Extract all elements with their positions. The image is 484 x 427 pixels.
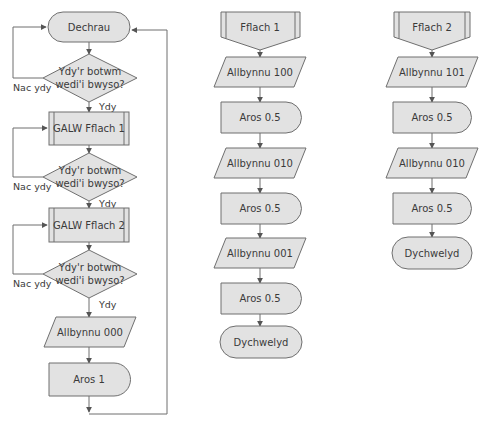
fflach2-step-3-output: Allbynnu 010 <box>386 148 478 178</box>
flowchart-canvas: Dechrau Ydy'r botwm wedi'i bwyso? Nac yd… <box>0 0 484 427</box>
fflach1-step-6-delay: Aros 0.5 <box>221 283 302 314</box>
fflach1-return-terminal: Dychwelyd <box>220 326 302 358</box>
fflach1-title: Fflach 1 <box>240 22 280 33</box>
decision-1-yes-label: Ydy <box>98 101 117 112</box>
decision-2-no-loop <box>13 128 47 177</box>
fflach1-step-4-delay: Aros 0.5 <box>221 193 302 224</box>
delay-1-label: Aros 1 <box>73 374 105 385</box>
decision-2-line1: Ydy'r botwm <box>58 165 122 176</box>
step-label: Allbynnu 001 <box>227 248 293 259</box>
fflach2-step-1-output: Allbynnu 101 <box>386 57 478 87</box>
step-label: Allbynnu 100 <box>227 67 293 78</box>
fflach1-header: Fflach 1 <box>221 12 300 50</box>
fflach2-return-label: Dychwelyd <box>405 248 460 259</box>
decision-2: Ydy'r botwm wedi'i bwyso? <box>43 153 137 201</box>
fflach1-subroutine: Fflach 1 Allbynnu 100 Aros 0.5 Allbynnu … <box>214 12 306 358</box>
fflach1-step-2-delay: Aros 0.5 <box>221 102 301 133</box>
flowchart-svg: Dechrau Ydy'r botwm wedi'i bwyso? Nac yd… <box>0 0 484 427</box>
start-terminal: Dechrau <box>48 12 130 42</box>
main-flow: Dechrau Ydy'r botwm wedi'i bwyso? Nac yd… <box>13 12 167 414</box>
decision-1-line1: Ydy'r botwm <box>58 66 122 77</box>
decision-2-no-label: Nac ydy <box>13 181 52 192</box>
fflach2-step-2-delay: Aros 0.5 <box>393 102 471 133</box>
decision-2-yes-label: Ydy <box>98 198 117 209</box>
step-label: Allbynnu 010 <box>399 158 465 169</box>
decision-1-line2: wedi'i bwyso? <box>55 79 124 90</box>
decision-3-no-label: Nac ydy <box>13 278 52 289</box>
step-label: Aros 0.5 <box>239 112 280 123</box>
fflach1-return-label: Dychwelyd <box>234 337 289 348</box>
fflach2-return-terminal: Dychwelyd <box>392 237 472 269</box>
step-label: Allbynnu 010 <box>227 158 293 169</box>
step-label: Aros 0.5 <box>411 112 452 123</box>
decision-1-no-loop <box>13 27 46 78</box>
step-label: Aros 0.5 <box>239 293 280 304</box>
decision-1: Ydy'r botwm wedi'i bwyso? <box>43 54 137 102</box>
step-label: Allbynnu 101 <box>399 67 465 78</box>
start-label: Dechrau <box>68 22 110 33</box>
decision-3-yes-label: Ydy <box>98 299 117 310</box>
fflach1-step-3-output: Allbynnu 010 <box>214 148 306 178</box>
output-000: Allbynnu 000 <box>44 317 136 347</box>
decision-3-line2: wedi'i bwyso? <box>55 275 124 286</box>
fflach2-step-4-delay: Aros 0.5 <box>393 193 471 224</box>
output-000-label: Allbynnu 000 <box>57 327 123 338</box>
decision-1-no-label: Nac ydy <box>13 82 52 93</box>
call-fflach1-process: GALW Fflach 1 <box>49 112 129 145</box>
call-fflach2-process: GALW Fflach 2 <box>49 208 129 242</box>
decision-2-line2: wedi'i bwyso? <box>55 178 124 189</box>
fflach1-step-5-output: Allbynnu 001 <box>214 238 306 268</box>
decision-3-line1: Ydy'r botwm <box>58 262 122 273</box>
step-label: Aros 0.5 <box>411 203 452 214</box>
fflach1-step-1-output: Allbynnu 100 <box>214 57 306 87</box>
delay-1: Aros 1 <box>49 363 131 396</box>
call-fflach2-label: GALW Fflach 2 <box>53 220 125 231</box>
step-label: Aros 0.5 <box>239 203 280 214</box>
fflach2-subroutine: Fflach 2 Allbynnu 101 Aros 0.5 Allbynnu … <box>386 12 478 269</box>
fflach2-title: Fflach 2 <box>412 22 452 33</box>
call-fflach1-label: GALW Fflach 1 <box>53 123 125 134</box>
decision-3: Ydy'r botwm wedi'i bwyso? <box>43 250 137 298</box>
fflach2-header: Fflach 2 <box>394 12 470 50</box>
decision-3-no-loop <box>13 225 47 274</box>
